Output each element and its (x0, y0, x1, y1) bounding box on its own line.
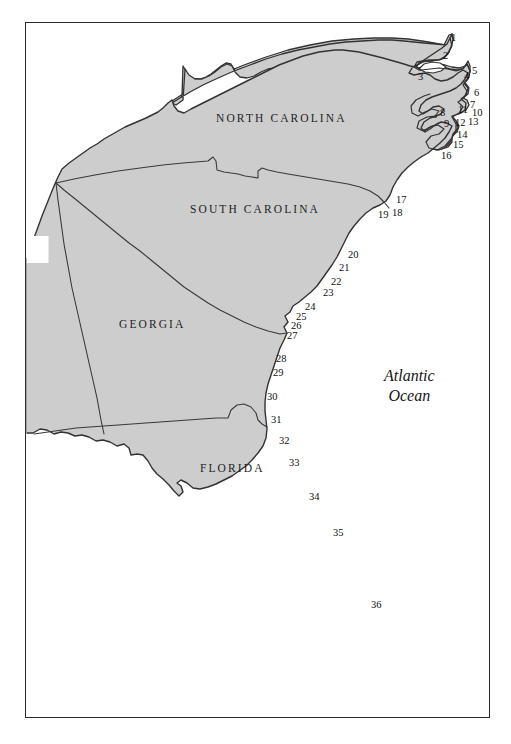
site-number-24: 24 (305, 302, 316, 313)
site-number-13: 13 (468, 117, 479, 128)
site-number-17: 17 (396, 195, 407, 206)
site-number-35: 35 (333, 528, 344, 539)
site-number-22: 22 (331, 277, 342, 288)
site-number-30: 30 (267, 392, 278, 403)
site-number-11: 11 (458, 105, 468, 116)
state-label-florida: FLORIDA (200, 462, 265, 474)
ocean-label-line-2: Ocean (384, 386, 435, 406)
site-number-27: 27 (287, 331, 298, 342)
site-number-8: 8 (440, 108, 445, 119)
site-number-9: 9 (444, 119, 449, 130)
site-number-34: 34 (309, 492, 320, 503)
site-number-32: 32 (279, 436, 290, 447)
site-number-33: 33 (289, 458, 300, 469)
ocean-label-line-1: Atlantic (384, 366, 435, 386)
state-label-georgia: GEORGIA (119, 318, 185, 330)
site-number-20: 20 (348, 250, 359, 261)
site-number-31: 31 (271, 415, 282, 426)
site-number-15: 15 (453, 140, 464, 151)
site-number-16: 16 (441, 151, 452, 162)
site-number-36: 36 (371, 600, 382, 611)
site-number-12: 12 (455, 118, 466, 129)
ocean-label-atlantic: Atlantic Ocean (384, 366, 435, 407)
site-number-1: 1 (451, 33, 456, 44)
site-number-23: 23 (323, 288, 334, 299)
site-number-18: 18 (392, 208, 403, 219)
site-number-4: 4 (464, 71, 469, 82)
site-number-6: 6 (474, 88, 479, 99)
map-figure: NORTH CAROLINA SOUTH CAROLINA GEORGIA FL… (0, 0, 511, 744)
site-number-29: 29 (273, 368, 284, 379)
state-label-south-carolina: SOUTH CAROLINA (190, 203, 320, 215)
site-number-2: 2 (443, 51, 448, 62)
site-number-28: 28 (276, 354, 287, 365)
site-number-5: 5 (472, 66, 477, 77)
northwest-white-notch (27, 236, 49, 263)
state-label-north-carolina: NORTH CAROLINA (216, 112, 347, 124)
site-number-3: 3 (418, 72, 423, 83)
site-number-19: 19 (378, 210, 389, 221)
site-number-21: 21 (339, 263, 350, 274)
